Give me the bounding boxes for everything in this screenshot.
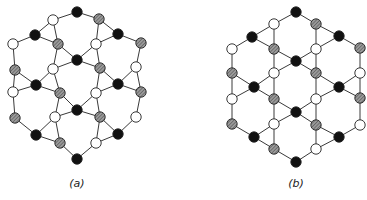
white-atom-icon xyxy=(269,68,279,78)
white-atom-icon xyxy=(269,119,279,129)
lattice-panel-b: (b) xyxy=(227,7,365,190)
black-atom-icon xyxy=(291,157,301,167)
lattice-figure: (a) (b) xyxy=(0,0,367,200)
panel-b-atoms xyxy=(227,7,365,167)
white-atom-icon xyxy=(91,39,101,49)
hatched-atom-icon xyxy=(10,65,20,75)
hatched-atom-icon xyxy=(94,14,104,24)
white-atom-icon xyxy=(355,120,365,130)
hatched-atom-icon xyxy=(136,38,146,48)
hatched-atom-icon xyxy=(269,144,279,154)
black-atom-icon xyxy=(30,30,40,40)
hatched-atom-icon xyxy=(227,68,237,78)
black-atom-icon xyxy=(72,55,82,65)
hatched-atom-icon xyxy=(269,44,279,54)
white-atom-icon xyxy=(269,19,279,29)
hatched-atom-icon xyxy=(10,113,20,123)
hatched-atom-icon xyxy=(95,63,105,73)
hatched-atom-icon xyxy=(355,93,365,103)
black-atom-icon xyxy=(334,31,344,41)
white-atom-icon xyxy=(91,138,101,148)
black-atom-icon xyxy=(334,132,344,142)
hatched-atom-icon xyxy=(355,43,365,53)
hatched-atom-icon xyxy=(53,39,63,49)
black-atom-icon xyxy=(31,80,41,90)
white-atom-icon xyxy=(8,87,18,97)
black-atom-icon xyxy=(291,7,301,17)
black-atom-icon xyxy=(113,29,123,39)
hatched-atom-icon xyxy=(55,88,65,98)
white-atom-icon xyxy=(50,112,60,122)
white-atom-icon xyxy=(8,39,18,49)
panel-b-caption: (b) xyxy=(288,177,304,190)
hatched-atom-icon xyxy=(311,120,321,130)
black-atom-icon xyxy=(291,107,301,117)
black-atom-icon xyxy=(113,79,123,89)
black-atom-icon xyxy=(291,56,301,66)
white-atom-icon xyxy=(48,15,58,25)
white-atom-icon xyxy=(48,64,58,74)
hatched-atom-icon xyxy=(136,87,146,97)
panel-a-atoms xyxy=(8,7,146,164)
hatched-atom-icon xyxy=(95,112,105,122)
white-atom-icon xyxy=(227,94,237,104)
hatched-atom-icon xyxy=(227,119,237,129)
hatched-atom-icon xyxy=(55,138,65,148)
black-atom-icon xyxy=(72,7,82,17)
white-atom-icon xyxy=(311,44,321,54)
black-atom-icon xyxy=(334,82,344,92)
black-atom-icon xyxy=(113,129,123,139)
white-atom-icon xyxy=(227,44,237,54)
white-atom-icon xyxy=(91,88,101,98)
black-atom-icon xyxy=(72,105,82,115)
white-atom-icon xyxy=(131,112,141,122)
hatched-atom-icon xyxy=(311,19,321,29)
white-atom-icon xyxy=(355,68,365,78)
black-atom-icon xyxy=(249,132,259,142)
black-atom-icon xyxy=(247,32,257,42)
panel-a-caption: (a) xyxy=(69,177,84,190)
hatched-atom-icon xyxy=(311,68,321,78)
hatched-atom-icon xyxy=(269,94,279,104)
white-atom-icon xyxy=(131,62,141,72)
lattice-panel-a: (a) xyxy=(8,7,146,190)
black-atom-icon xyxy=(72,154,82,164)
white-atom-icon xyxy=(311,144,321,154)
black-atom-icon xyxy=(249,82,259,92)
white-atom-icon xyxy=(311,94,321,104)
black-atom-icon xyxy=(31,130,41,140)
